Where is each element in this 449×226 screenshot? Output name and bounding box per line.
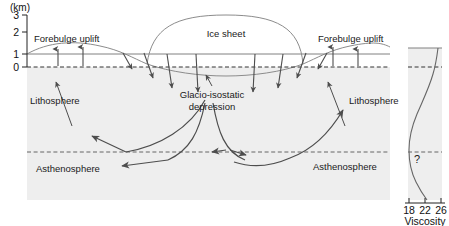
label-asthenosphere-left: Asthenosphere bbox=[36, 163, 100, 174]
elevation-tick-label-2: 2 bbox=[13, 26, 19, 38]
elevation-tick-label-3: 3 bbox=[13, 9, 19, 21]
viscosity-unknown-marker: ? bbox=[414, 153, 420, 165]
elevation-tick-label-1: 1 bbox=[13, 48, 19, 60]
elevation-axis: (km) 3 2 1 0 bbox=[10, 2, 30, 73]
forebulge-uplift-arrows-left bbox=[58, 47, 83, 66]
earth-interior-fill bbox=[27, 67, 390, 200]
label-lithosphere-left: Lithosphere bbox=[30, 95, 80, 106]
glacio-isostasy-figure: (km) 3 2 1 0 Forebulge uplift Ice sheet … bbox=[0, 0, 449, 226]
label-forebulge-uplift-left: Forebulge uplift bbox=[34, 33, 100, 44]
figure-canvas: (km) 3 2 1 0 Forebulge uplift Ice sheet … bbox=[0, 0, 449, 226]
label-ice-sheet: Ice sheet bbox=[207, 28, 246, 39]
label-forebulge-uplift-right: Forebulge uplift bbox=[318, 33, 384, 44]
viscosity-axis-title: Viscosity bbox=[404, 215, 446, 226]
elevation-tick-label-0: 0 bbox=[13, 61, 19, 73]
viscosity-panel: ? 18 22 26 Viscosity bbox=[403, 48, 447, 226]
label-depression-line1: Glacio-isostatic bbox=[180, 89, 245, 100]
label-depression-line2: depression bbox=[189, 101, 235, 112]
label-lithosphere-right: Lithosphere bbox=[349, 95, 399, 106]
label-asthenosphere-right: Asthenosphere bbox=[313, 161, 377, 172]
ice-sheet-dome bbox=[147, 15, 303, 64]
